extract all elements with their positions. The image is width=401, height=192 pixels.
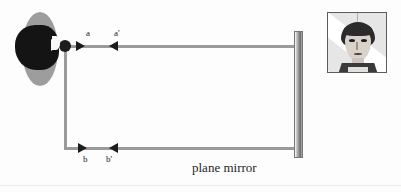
arrow-b-prime-icon [109,143,118,153]
portrait-eye-right [361,39,367,42]
portrait-mouth [354,53,362,55]
upper-ray-line [65,45,297,48]
label-a-prime: a' [114,29,120,38]
page-bottom-rule [0,185,401,186]
portrait-nose [356,42,358,50]
arrow-b-icon [78,143,87,153]
portrait-eye-left [349,39,355,42]
arrow-a-prime-icon [109,41,118,51]
plane-mirror-caption: plane mirror [192,160,257,176]
reflected-face-photo [327,12,387,73]
label-b-prime: b' [106,155,112,164]
lower-ray-line [64,147,297,150]
figure-canvas: a a' b b' plane mirror [0,0,401,192]
plane-mirror-bar [294,31,303,158]
observer-head [12,12,68,86]
portrait-fringe [343,23,373,36]
label-b: b [83,155,88,164]
arrow-a-icon [76,41,85,51]
portrait-shirt [348,67,368,73]
eye-wedge-icon [51,39,60,51]
label-a: a [86,29,90,38]
